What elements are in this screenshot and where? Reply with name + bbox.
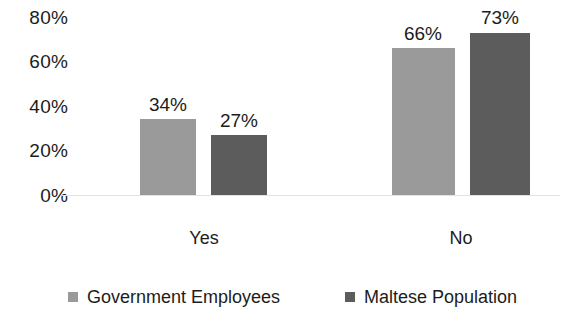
legend-entry-government-employees: Government Employees bbox=[68, 286, 280, 308]
y-axis-tick-60: 60% bbox=[8, 52, 68, 71]
y-axis-tick-80: 80% bbox=[8, 8, 68, 27]
bar-chart: 80% 60% 40% 20% 0% 34% 27% 66% 73% Yes N… bbox=[0, 0, 575, 326]
y-axis-tick-20: 20% bbox=[8, 141, 68, 160]
bar-label-maltese-population-no: 73% bbox=[450, 8, 550, 27]
y-axis-tick-0: 0% bbox=[8, 186, 68, 205]
x-axis-category-no: No bbox=[411, 228, 511, 248]
legend-swatch-icon-government-employees bbox=[68, 292, 78, 302]
bar-label-maltese-population-yes: 27% bbox=[189, 111, 289, 130]
x-axis-category-yes: Yes bbox=[154, 228, 254, 248]
legend-label-government-employees: Government Employees bbox=[87, 286, 280, 308]
bar-government-employees-yes bbox=[140, 119, 196, 195]
y-axis-tick-40: 40% bbox=[8, 97, 68, 116]
legend-swatch-icon-maltese-population bbox=[345, 292, 355, 302]
bar-maltese-population-yes bbox=[211, 135, 267, 195]
x-axis-baseline bbox=[62, 195, 560, 196]
legend-entry-maltese-population: Maltese Population bbox=[345, 286, 517, 308]
bar-maltese-population-no bbox=[470, 33, 530, 195]
legend-label-maltese-population: Maltese Population bbox=[364, 286, 517, 308]
legend: Government Employees Maltese Population bbox=[0, 286, 575, 314]
plot-area: 80% 60% 40% 20% 0% 34% 27% 66% 73% bbox=[0, 0, 575, 215]
bar-government-employees-no bbox=[392, 48, 455, 195]
